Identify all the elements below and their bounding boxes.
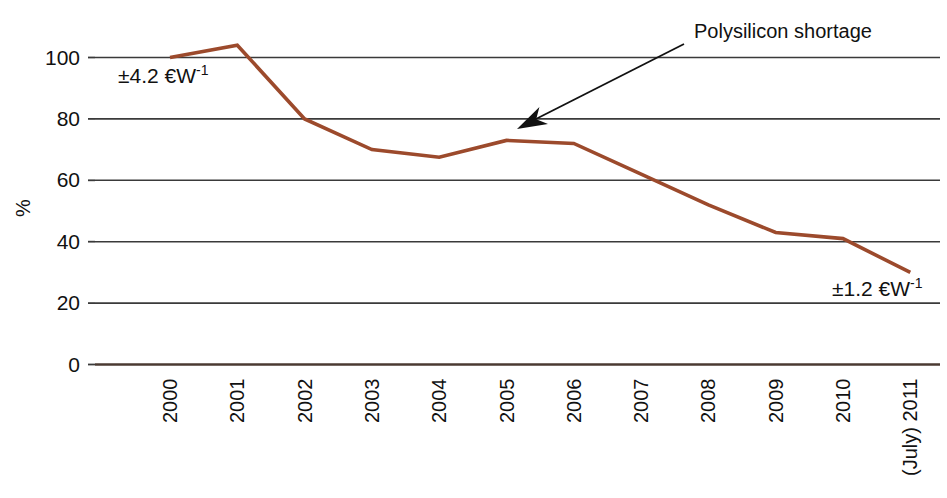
y-tick-label-40: 40	[57, 230, 80, 253]
x-tick-label-2003: 2003	[361, 379, 383, 424]
x-tick-label-july-2011: (July) 2011	[899, 379, 921, 476]
price-index-line-chart: 020406080100 200020012002200320042005200…	[0, 0, 947, 498]
x-tick-label-2006: 2006	[563, 379, 585, 424]
annotation-label-polysilicon-shortage: Polysilicon shortage	[694, 20, 872, 42]
y-tick-label-20: 20	[57, 291, 80, 314]
x-tick-label-2005: 2005	[496, 379, 518, 424]
x-tick-label-2002: 2002	[294, 379, 316, 424]
price-annotation-price-start: ±4.2 €W-1	[118, 62, 209, 87]
x-tick-label-2009: 2009	[765, 379, 787, 424]
price-annotation-value: ±1.2 €W	[832, 277, 910, 300]
y-tick-label-80: 80	[57, 107, 80, 130]
y-tick-label-100: 100	[45, 46, 80, 69]
y-tick-label-0: 0	[68, 353, 80, 376]
price-annotation-value: ±4.2 €W	[118, 64, 196, 87]
x-tick-label-2010: 2010	[832, 379, 854, 424]
x-tick-label-2004: 2004	[428, 379, 450, 424]
y-axis-title: %	[12, 199, 34, 217]
chart-canvas: 020406080100 200020012002200320042005200…	[0, 0, 947, 498]
x-tick-label-2008: 2008	[697, 379, 719, 424]
x-tick-label-2001: 2001	[226, 379, 248, 424]
x-tick-label-2000: 2000	[159, 379, 181, 424]
price-annotation-exponent: -1	[910, 275, 923, 291]
y-tick-label-60: 60	[57, 168, 80, 191]
price-annotation-price-end: ±1.2 €W-1	[832, 275, 923, 300]
price-annotation-exponent: -1	[196, 62, 209, 78]
x-tick-label-2007: 2007	[630, 379, 652, 424]
